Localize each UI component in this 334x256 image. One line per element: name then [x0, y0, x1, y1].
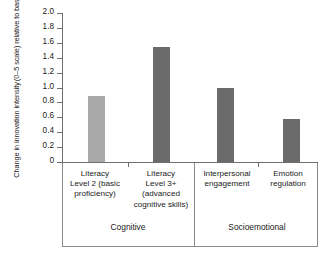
y-tick-label: 1.0	[43, 83, 54, 91]
y-tick-label: 0.6	[43, 112, 54, 120]
category-label-interpersonal-engagement: Interpersonalengagement	[196, 169, 258, 189]
y-axis-title-line1: Change in innovation intensity	[13, 82, 22, 178]
group-divider	[194, 163, 195, 247]
y-tick-label: 0.4	[43, 127, 54, 135]
bar-emotion-regulation	[283, 119, 300, 162]
category-label-line: proficiency)	[62, 189, 128, 199]
category-label-literacy-level-2: LiteracyLevel 2 (basicproficiency)	[62, 169, 128, 200]
category-label-line: Literacy	[128, 169, 194, 179]
group-label-cognitive: Cognitive	[62, 222, 194, 232]
bar-literacy-level-3plus	[153, 47, 170, 162]
y-tick-label: 0.2	[43, 142, 54, 150]
y-tick-label: 1.8	[43, 23, 54, 31]
category-label-emotion-regulation: Emotionregulation	[258, 169, 318, 189]
bar-literacy-level-2	[88, 96, 105, 162]
group-label-socioemotional: Socioemotional	[196, 222, 318, 232]
y-tick-label: 1.2	[43, 68, 54, 76]
y-tick-label: 2.0	[43, 8, 54, 16]
category-label-line: (advanced	[128, 189, 194, 199]
category-label-line: regulation	[258, 179, 318, 189]
category-label-literacy-level-3plus: LiteracyLevel 3+(advancedcognitive skill…	[128, 169, 194, 210]
category-label-line: Interpersonal	[196, 169, 258, 179]
y-tick-label: 1.6	[43, 38, 54, 46]
bar-chart-figure: Change in innovation intensity (0–5 scal…	[0, 0, 334, 256]
y-axis-tick-labels: 2.0 1.8 1.6 1.4 1.2 1.0 0.8 0.6 0.4 0.2 …	[28, 8, 54, 166]
category-label-line: engagement	[196, 179, 258, 189]
category-label-line: cognitive skills)	[128, 200, 194, 210]
y-tick-label: 0	[49, 157, 54, 165]
plot-area	[62, 13, 318, 162]
y-axis-title-line2: (0–5 scale) relative to baseline	[13, 0, 22, 81]
y-tick-label: 1.4	[43, 53, 54, 61]
category-label-line: Level 3+	[128, 179, 194, 189]
category-label-line: Literacy	[62, 169, 128, 179]
category-label-line: Emotion	[258, 169, 318, 179]
y-tick-label: 0.8	[43, 97, 54, 105]
bar-interpersonal-engagement	[217, 88, 234, 163]
category-label-line: Level 2 (basic	[62, 179, 128, 189]
